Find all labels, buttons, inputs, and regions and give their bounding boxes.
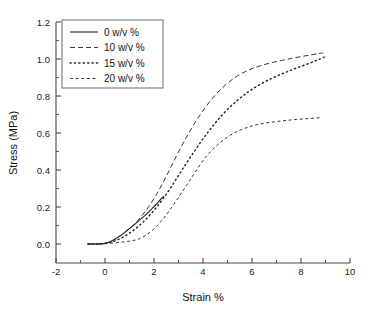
y-tick-label: 0.4: [37, 165, 50, 176]
y-tick-label: 0.0: [37, 239, 50, 250]
x-tick-label: -2: [52, 266, 60, 277]
y-tick-label: 0.6: [37, 128, 50, 139]
x-tick-label: 8: [298, 266, 303, 277]
chart-canvas: -20246810 0.00.20.40.60.81.01.2 0 w/v %1…: [0, 0, 369, 310]
y-tick-label: 0.2: [37, 202, 50, 213]
x-tick-label: 0: [102, 266, 107, 277]
stress-strain-chart: -20246810 0.00.20.40.60.81.01.2 0 w/v %1…: [0, 0, 369, 310]
legend-label-2: 15 w/v %: [104, 58, 145, 69]
y-tick-label: 0.8: [37, 91, 50, 102]
y-axis-title: Stress (MPa): [7, 111, 19, 175]
x-axis-title: Strain %: [182, 291, 224, 303]
x-tick-label: 4: [200, 266, 205, 277]
x-tick-label: 2: [151, 266, 156, 277]
legend: 0 w/v %10 w/v %15 w/v %20 w/v %: [62, 20, 163, 88]
y-tick-label: 1.0: [37, 54, 50, 65]
legend-label-3: 20 w/v %: [104, 73, 145, 84]
legend-label-1: 10 w/v %: [104, 42, 145, 53]
y-tick-label: 1.2: [37, 17, 50, 28]
legend-label-0: 0 w/v %: [104, 27, 139, 38]
x-tick-label: 10: [345, 266, 356, 277]
x-tick-label: 6: [249, 266, 254, 277]
